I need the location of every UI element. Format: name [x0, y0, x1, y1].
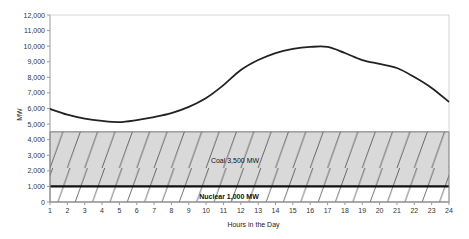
y-tick-label: 0: [41, 199, 45, 206]
y-tick-label: 3,000: [27, 152, 45, 159]
generation-bands: [50, 132, 449, 202]
x-tick-label: 10: [202, 207, 210, 214]
y-tick-label: 6,000: [27, 105, 45, 112]
x-tick-label: 15: [289, 207, 297, 214]
y-tick-label: 9,000: [27, 58, 45, 65]
y-tick-label: 8,000: [27, 74, 45, 81]
x-tick-label: 3: [83, 207, 87, 214]
x-tick-label: 9: [187, 207, 191, 214]
x-tick-label: 21: [393, 207, 401, 214]
x-tick-label: 11: [220, 207, 227, 214]
y-tick-label: 11,000: [24, 27, 45, 34]
x-tick-label: 6: [135, 207, 139, 214]
x-tick-label: 17: [324, 207, 332, 214]
load-chart: 01,0002,0003,0004,0005,0006,0007,0008,00…: [0, 0, 469, 239]
chart-container: 01,0002,0003,0004,0005,0006,0007,0008,00…: [0, 0, 469, 239]
x-tick-label: 22: [410, 207, 418, 214]
x-tick-label: 23: [428, 207, 436, 214]
x-tick-label: 16: [306, 207, 314, 214]
x-axis-title-text: Hours in the Day: [227, 221, 280, 229]
y-tick-label: 4,000: [27, 136, 45, 143]
load-curve-line: [50, 46, 449, 122]
x-tick-label: 20: [376, 207, 384, 214]
x-tick-label: 18: [341, 207, 349, 214]
x-tick-label: 12: [237, 207, 245, 214]
y-tick-label: 1,000: [27, 183, 45, 190]
y-tick-label: 10,000: [24, 43, 46, 50]
x-tick-label: 24: [445, 207, 453, 214]
y-tick-label: 5,000: [27, 121, 45, 128]
y-axis-title-text: MW: [16, 108, 23, 121]
nuclear-band-label: Nuclear 1,000 MW: [199, 193, 259, 201]
x-tick-label: 8: [169, 207, 173, 214]
coal-band-label: Coal 3,500 MW: [211, 157, 260, 164]
x-tick-label: 14: [272, 207, 280, 214]
x-tick-label: 4: [100, 207, 104, 214]
y-tick-label: 12,000: [24, 12, 46, 19]
x-tick-label: 7: [152, 207, 156, 214]
load-curve: [50, 46, 449, 122]
x-tick-label: 5: [117, 207, 121, 214]
x-tick-label: 13: [254, 207, 262, 214]
y-tick-label: 2,000: [27, 167, 45, 174]
x-tick-label: 2: [65, 207, 69, 214]
x-tick-label: 1: [48, 207, 52, 214]
y-tick-label: 7,000: [27, 89, 45, 96]
x-tick-label: 19: [358, 207, 366, 214]
